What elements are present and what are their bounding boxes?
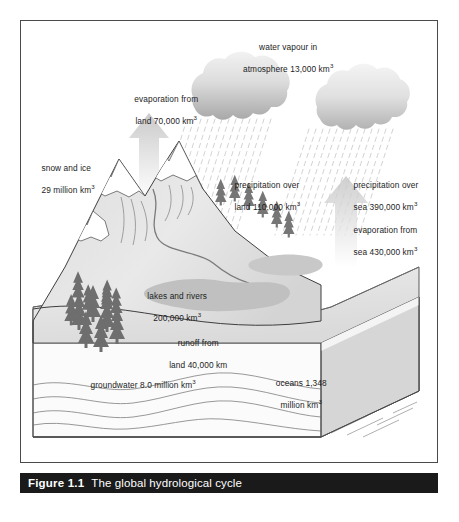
label-snow-and-ice-sup: 3 — [91, 183, 95, 190]
label-precipitation-land-line1: precipitation over — [234, 180, 299, 190]
label-evaporation-land-line1: evaporation from — [134, 94, 198, 104]
label-water-vapour-line1: water vapour in — [259, 42, 317, 52]
label-oceans: oceans 1,348 million km3 — [239, 367, 349, 422]
label-groundwater-line1: groundwater 8.0 million km — [90, 380, 192, 390]
diagram-frame: water vapour in atmosphere 13,000 km3 ev… — [20, 20, 438, 463]
figure-caption-bar: Figure 1.1 The global hydrological cycle — [20, 473, 438, 493]
label-groundwater: groundwater 8.0 million km3 — [76, 369, 246, 402]
label-evaporation-land-sup: 3 — [194, 114, 198, 121]
label-precipitation-sea-sup: 3 — [414, 200, 418, 207]
label-water-vapour-line2: atmosphere 13,000 km — [243, 64, 330, 74]
label-precipitation-land: precipitation over land 110,000 km3 — [220, 169, 330, 224]
label-precipitation-land-line2: land 110,000 km — [234, 202, 296, 212]
label-water-vapour-sup: 3 — [330, 62, 334, 69]
label-snow-and-ice-line1: snow and ice — [41, 163, 91, 173]
label-precipitation-land-sup: 3 — [297, 200, 301, 207]
label-oceans-line1: oceans 1,348 — [276, 378, 327, 388]
label-oceans-line2: million km — [281, 400, 319, 410]
label-snow-and-ice-line2: 29 million km — [41, 185, 91, 195]
label-precipitation-sea-line2: sea 390,000 km — [353, 202, 413, 212]
figure-container: water vapour in atmosphere 13,000 km3 ev… — [0, 0, 459, 522]
label-snow-and-ice: snow and ice 29 million km3 — [27, 152, 131, 207]
label-runoff-from-land-line1: runoff from — [178, 338, 219, 348]
label-evaporation-land-line2: land 70,000 km — [135, 116, 193, 126]
label-water-vapour: water vapour in atmosphere 13,000 km3 — [211, 31, 351, 86]
label-evaporation-sea: evaporation from sea 430,000 km3 — [339, 214, 438, 269]
label-oceans-sup: 3 — [318, 398, 322, 405]
label-lakes-and-rivers-line2: 200,000 km — [153, 313, 197, 323]
label-groundwater-sup: 3 — [192, 378, 196, 385]
label-lakes-and-rivers-line1: lakes and rivers — [147, 291, 207, 301]
label-evaporation-sea-line2: sea 430,000 km — [353, 247, 413, 257]
label-evaporation-sea-line1: evaporation from — [353, 225, 417, 235]
figure-caption-number: Figure 1.1 — [20, 477, 84, 489]
label-precipitation-sea-line1: precipitation over — [353, 180, 418, 190]
figure-caption-title: The global hydrological cycle — [84, 477, 242, 489]
label-lakes-and-rivers-sup: 3 — [198, 311, 202, 318]
label-evaporation-sea-sup: 3 — [414, 245, 418, 252]
label-evaporation-land: evaporation from land 70,000 km3 — [99, 83, 219, 138]
